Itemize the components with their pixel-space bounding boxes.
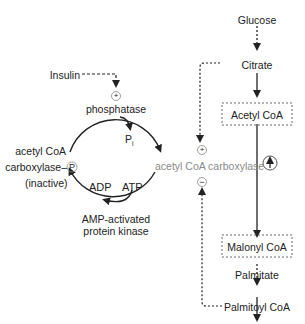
- citrate-label: Citrate: [242, 59, 273, 71]
- citrate-effect-sign: +: [200, 144, 205, 156]
- inactive-enzyme-line2: carboxylase–: [0, 161, 67, 173]
- phosphatase-activator-sign: +: [114, 90, 119, 102]
- malonyl-coa-label: Malonyl CoA: [227, 241, 287, 253]
- palmitate-label: Palmitate: [235, 269, 279, 281]
- palmitoyl-effect-sign: −: [199, 176, 204, 188]
- insulin-arrow: [82, 74, 116, 85]
- active-enzyme-label: acetyl CoA carboxylase: [155, 160, 264, 172]
- phospho-tag: P: [69, 161, 75, 173]
- kinase-label-line1: AMP-activated: [82, 213, 150, 225]
- pi-label: Pi: [125, 133, 134, 150]
- kinase-label-line2: protein kinase: [83, 225, 148, 237]
- adp-label: ADP: [89, 181, 112, 193]
- atp-label: ATP: [122, 181, 143, 193]
- cycle-arcs: [70, 117, 160, 202]
- glucose-label: Glucose: [238, 14, 277, 26]
- citrate-activation-arrow: [200, 63, 220, 140]
- phosphatase-label: phosphatase: [86, 103, 146, 115]
- inactive-enzyme-line3: (inactive): [25, 177, 68, 189]
- acetyl-coa-label: Acetyl CoA: [231, 109, 283, 121]
- palmitoyl-coa-label: Palmitoyl CoA: [224, 301, 290, 313]
- inactive-enzyme-line1: acetyl CoA: [0, 145, 66, 157]
- palmitoyl-inhibition-arrow: [202, 190, 222, 306]
- insulin-label: Insulin: [20, 69, 80, 81]
